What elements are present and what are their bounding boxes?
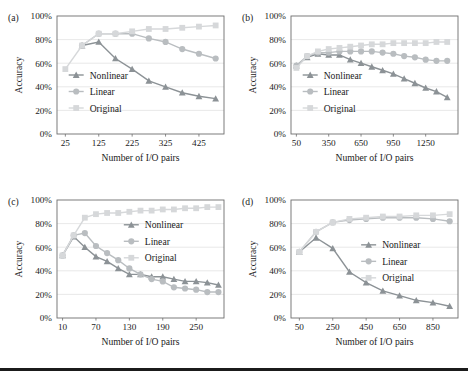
data-point-original	[196, 24, 202, 30]
x-axis-title: Number of I/O pairs	[335, 336, 413, 347]
data-point-nonlinear	[347, 56, 354, 62]
chart-svg-b: (b)0%20%40%60%80%100%503506509501250Nonl…	[234, 2, 468, 180]
data-point-original	[413, 212, 419, 218]
data-point-linear	[149, 276, 155, 282]
data-point-linear	[447, 218, 453, 224]
data-point-original	[412, 40, 418, 46]
y-tick-label: 60%	[269, 59, 286, 69]
chart-panel-a: (a)0%20%40%60%80%100%25125225325425Nonli…	[0, 2, 234, 180]
chart-svg-c: (c)0%20%40%60%80%100%1070130190250Nonlin…	[0, 186, 234, 364]
data-point-original	[96, 31, 102, 37]
data-point-linear	[160, 278, 166, 284]
data-point-linear	[423, 57, 429, 63]
legend-marker-original	[366, 275, 372, 281]
x-tick-label: 325	[159, 138, 173, 148]
data-point-original	[113, 31, 119, 37]
data-point-linear	[146, 35, 152, 41]
chart-panel-b: (b)0%20%40%60%80%100%503506509501250Nonl…	[234, 2, 468, 180]
y-tick-label: 100%	[265, 195, 287, 205]
chart-svg-d: (d)0%20%40%60%80%100%50250450650850Nonli…	[234, 186, 468, 364]
data-point-original	[313, 229, 319, 235]
data-point-original	[204, 204, 210, 210]
series-linear	[59, 230, 221, 295]
data-point-nonlinear	[329, 245, 336, 251]
y-tick-label: 100%	[31, 195, 53, 205]
x-tick-label: 50	[295, 322, 305, 332]
y-axis-title: Accuracy	[247, 56, 258, 93]
data-point-original	[182, 205, 188, 211]
data-point-original	[93, 211, 99, 217]
y-tick-label: 40%	[269, 82, 286, 92]
data-point-linear	[433, 58, 439, 64]
legend: NonlinearLinearOriginal	[124, 219, 184, 263]
y-tick-label: 80%	[269, 219, 286, 229]
data-point-linear	[444, 58, 450, 64]
y-axis-title: Accuracy	[247, 240, 258, 277]
data-point-original	[149, 208, 155, 214]
data-point-original	[129, 28, 135, 34]
x-axis-title: Number of I/O pairs	[101, 336, 179, 347]
data-point-original	[397, 214, 403, 220]
data-point-original	[363, 215, 369, 221]
data-point-linear	[213, 55, 219, 61]
data-point-original	[430, 212, 436, 218]
data-point-original	[401, 40, 407, 46]
legend-marker-linear	[366, 258, 372, 264]
panel-letter-a: (a)	[8, 12, 19, 24]
y-tick-label: 60%	[269, 243, 286, 253]
data-point-original	[434, 39, 440, 45]
y-tick-label: 20%	[269, 290, 286, 300]
data-point-original	[216, 204, 222, 210]
x-tick-label: 1250	[416, 138, 435, 148]
legend: NonlinearLinearOriginal	[361, 239, 421, 283]
x-tick-label: 350	[322, 138, 336, 148]
legend-label-linear: Linear	[324, 86, 350, 97]
data-point-original	[115, 210, 121, 216]
data-point-original	[179, 25, 185, 31]
data-point-original	[146, 26, 152, 32]
data-point-original	[104, 210, 110, 216]
data-point-original	[380, 214, 386, 220]
y-tick-label: 80%	[35, 219, 52, 229]
data-point-original	[160, 207, 166, 213]
legend-label-original: Original	[145, 252, 177, 263]
legend-label-nonlinear: Nonlinear	[90, 70, 129, 81]
y-tick-label: 60%	[35, 59, 52, 69]
data-point-linear	[358, 48, 364, 54]
data-point-linear	[390, 51, 396, 57]
data-point-original	[171, 207, 177, 213]
legend: NonlinearLinearOriginal	[69, 70, 129, 114]
data-point-original	[444, 39, 450, 45]
legend-marker-linear	[73, 88, 79, 94]
y-tick-label: 20%	[35, 290, 52, 300]
data-point-nonlinear	[422, 85, 429, 91]
legend-label-original: Original	[382, 272, 414, 283]
y-tick-label: 100%	[31, 11, 53, 21]
y-tick-label: 80%	[269, 35, 286, 45]
x-tick-label: 250	[326, 322, 340, 332]
data-point-original	[304, 53, 310, 59]
y-tick-label: 40%	[35, 82, 52, 92]
data-point-linear	[179, 46, 185, 52]
data-point-linear	[171, 284, 177, 290]
x-tick-label: 650	[393, 322, 407, 332]
data-point-nonlinear	[379, 287, 386, 293]
data-point-original	[347, 44, 353, 50]
x-tick-label: 950	[386, 138, 400, 148]
data-point-nonlinear	[401, 75, 408, 81]
y-tick-label: 20%	[35, 106, 52, 116]
data-point-original	[369, 41, 375, 47]
legend-marker-original	[73, 105, 79, 111]
legend-label-linear: Linear	[90, 86, 116, 97]
legend-marker-original	[128, 255, 134, 261]
bottom-horizontal-rule	[0, 368, 468, 371]
data-point-original	[82, 215, 88, 221]
data-point-original	[163, 26, 169, 32]
data-point-nonlinear	[412, 80, 419, 86]
x-tick-label: 250	[189, 322, 203, 332]
data-point-linear	[401, 53, 407, 59]
data-point-original	[315, 49, 321, 55]
legend-label-original: Original	[90, 103, 122, 114]
y-tick-label: 40%	[269, 266, 286, 276]
data-point-original	[126, 209, 132, 215]
